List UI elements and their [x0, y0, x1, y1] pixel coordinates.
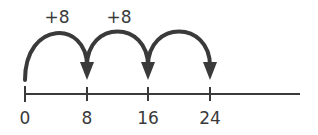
- jump-arc-16-to-24: [148, 32, 210, 67]
- number-line-diagram: 0 8 16 24 +8 +8: [0, 0, 318, 135]
- jump-label-0: +8: [44, 7, 69, 27]
- arrowhead-icon: [203, 62, 217, 80]
- jump-arc-8-to-16: [87, 32, 148, 67]
- tick-label-24: 24: [199, 108, 221, 128]
- tick-label-0: 0: [20, 108, 31, 128]
- jump-arc-0-to-8: [25, 33, 87, 80]
- tick-label-16: 16: [137, 108, 159, 128]
- tick-label-8: 8: [82, 108, 93, 128]
- jump-label-1: +8: [106, 7, 131, 27]
